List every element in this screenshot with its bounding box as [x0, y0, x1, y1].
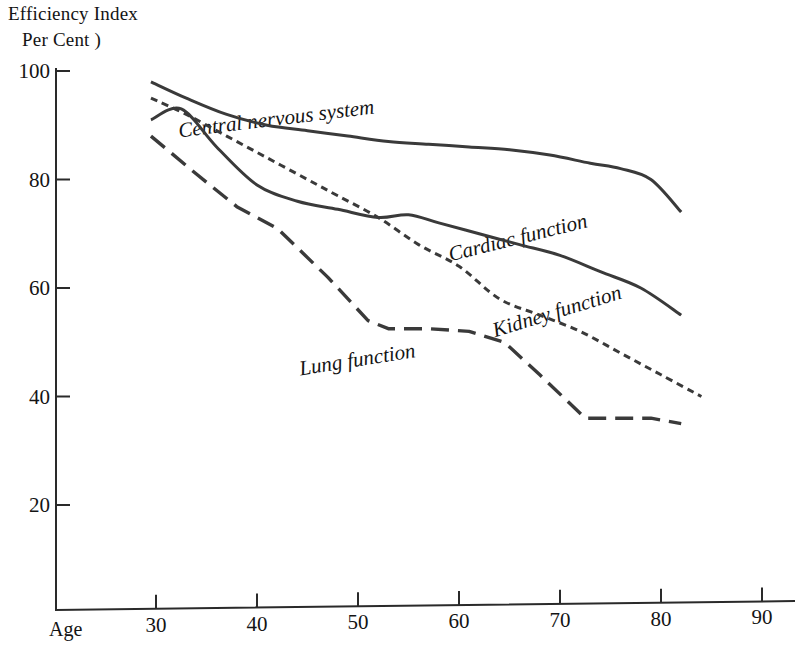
data-series-group	[151, 82, 701, 424]
chart-root: Efficiency Index Per Cent ) Age 10080604…	[0, 0, 809, 646]
series-line-central-nervous-system	[151, 82, 681, 212]
series-line-lung-function	[151, 136, 681, 424]
axis-ticks	[56, 71, 762, 609]
axis-lines	[56, 68, 795, 610]
plot-area	[0, 0, 809, 646]
